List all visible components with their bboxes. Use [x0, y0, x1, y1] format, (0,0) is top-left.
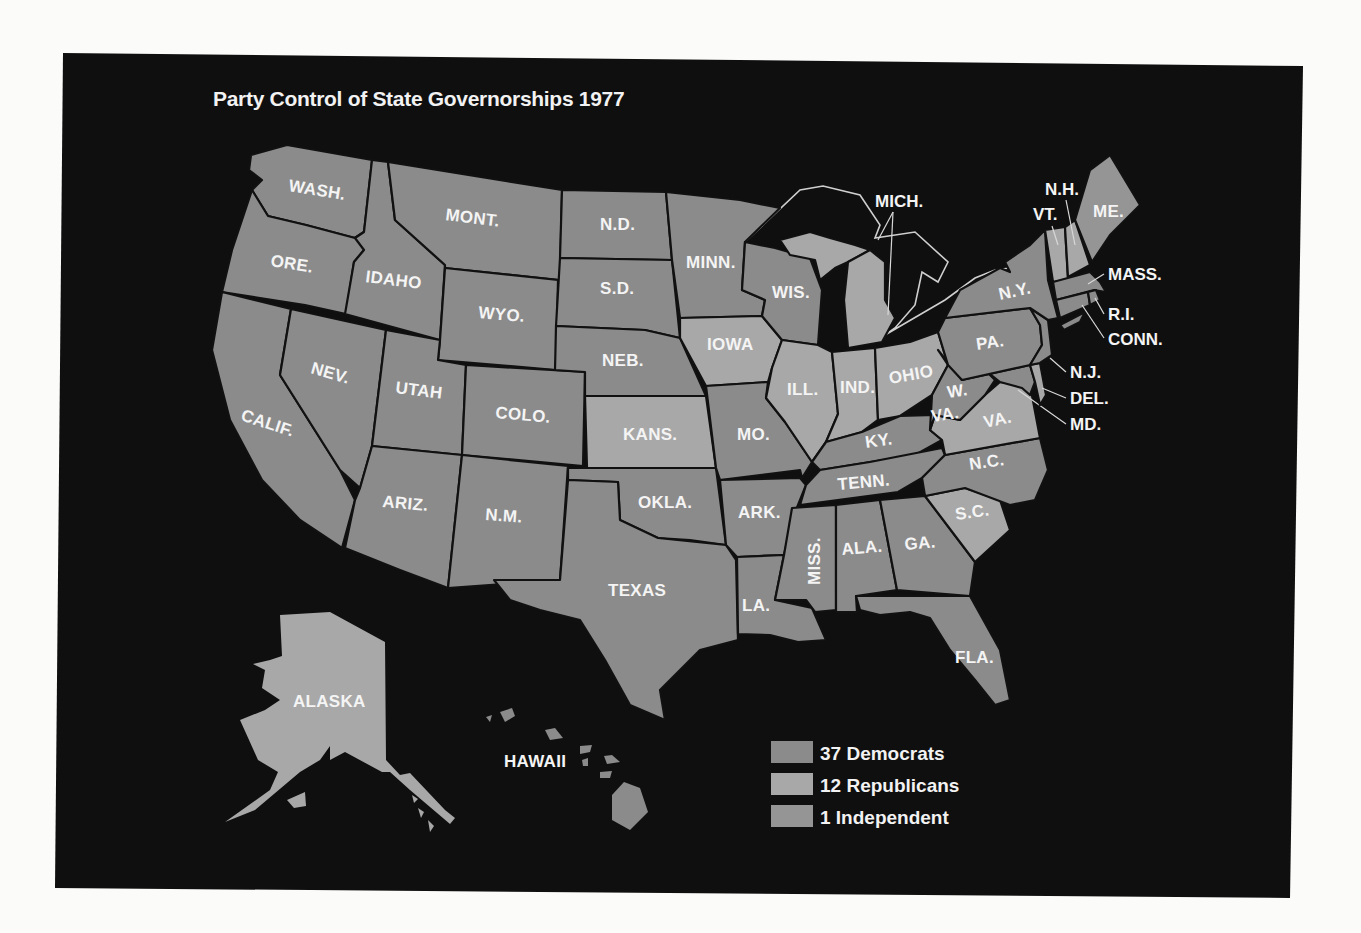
svg-text:KY.: KY. — [864, 429, 894, 452]
svg-text:R.I.: R.I. — [1108, 305, 1134, 324]
state-nm[interactable]: N.M. — [448, 455, 568, 588]
svg-text:ILL.: ILL. — [787, 380, 818, 399]
svg-text:MINN.: MINN. — [686, 253, 736, 272]
svg-text:W.: W. — [946, 380, 969, 402]
svg-text:ME.: ME. — [1093, 202, 1124, 221]
svg-text:HAWAII: HAWAII — [504, 752, 566, 771]
svg-text:ALA.: ALA. — [841, 536, 883, 558]
governorship-map-figure: Party Control of State Governorships 197… — [0, 0, 1361, 933]
legend-swatch-republicans — [771, 773, 813, 795]
svg-text:IOWA: IOWA — [707, 335, 754, 354]
svg-text:MISS.: MISS. — [805, 537, 824, 585]
svg-text:S.D.: S.D. — [600, 279, 634, 298]
svg-text:MO.: MO. — [737, 425, 770, 444]
state-colo[interactable]: COLO. — [462, 365, 585, 466]
svg-text:TEXAS: TEXAS — [608, 581, 666, 600]
state-nd[interactable]: N.D. — [560, 190, 672, 260]
svg-text:ALASKA: ALASKA — [293, 692, 366, 711]
svg-text:VT.: VT. — [1033, 205, 1058, 224]
svg-text:IND.: IND. — [840, 378, 875, 397]
svg-text:N.J.: N.J. — [1070, 363, 1101, 382]
svg-text:1 Independent: 1 Independent — [820, 807, 949, 828]
state-wyo[interactable]: WYO. — [438, 268, 558, 370]
svg-text:PA.: PA. — [975, 331, 1005, 354]
legend-swatch-democrats — [771, 741, 813, 763]
legend-item-republicans: 12 Republicans — [771, 773, 959, 796]
legend-item-democrats: 37 Democrats — [771, 741, 945, 764]
svg-text:CONN.: CONN. — [1108, 330, 1163, 349]
svg-text:MASS.: MASS. — [1108, 265, 1162, 284]
legend-item-independent: 1 Independent — [771, 805, 949, 828]
legend: 37 Democrats 12 Republicans 1 Independen… — [771, 741, 959, 828]
svg-text:MICH.: MICH. — [875, 192, 923, 211]
map-title: Party Control of State Governorships 197… — [213, 87, 624, 110]
svg-text:37 Democrats: 37 Democrats — [820, 743, 945, 764]
svg-text:WIS.: WIS. — [772, 283, 810, 302]
svg-text:NEB.: NEB. — [602, 351, 644, 370]
svg-text:FLA.: FLA. — [955, 648, 994, 667]
svg-text:N.D.: N.D. — [600, 215, 635, 234]
svg-text:WYO.: WYO. — [478, 303, 526, 326]
legend-swatch-independent — [771, 805, 813, 827]
svg-text:12 Republicans: 12 Republicans — [820, 775, 959, 796]
svg-text:ARIZ.: ARIZ. — [382, 492, 429, 515]
svg-text:LA.: LA. — [742, 596, 770, 615]
svg-text:OKLA.: OKLA. — [638, 493, 692, 512]
svg-text:N.M.: N.M. — [485, 505, 523, 527]
svg-text:GA.: GA. — [904, 532, 937, 554]
svg-text:ARK.: ARK. — [738, 503, 781, 522]
svg-text:DEL.: DEL. — [1070, 389, 1109, 408]
svg-text:VA.: VA. — [930, 403, 960, 426]
svg-text:KANS.: KANS. — [623, 425, 677, 444]
svg-text:N.H.: N.H. — [1045, 180, 1079, 199]
svg-text:MD.: MD. — [1070, 415, 1101, 434]
state-kans[interactable]: KANS. — [585, 396, 716, 468]
